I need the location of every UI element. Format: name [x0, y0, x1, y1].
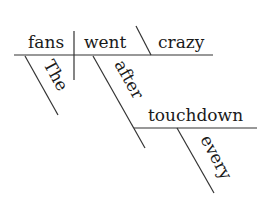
word-every: every	[196, 131, 236, 183]
word-touchdown: touchdown	[148, 105, 243, 125]
word-the: The	[40, 56, 73, 94]
word-fans: fans	[28, 32, 64, 52]
word-crazy: crazy	[158, 32, 205, 52]
predicate-slant	[136, 26, 151, 55]
sentence-diagram: fans went crazy The after touchdown ever…	[0, 0, 268, 199]
word-went: went	[84, 32, 127, 52]
